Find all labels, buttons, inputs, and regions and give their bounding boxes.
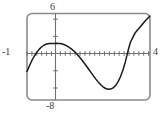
x-max-label: 4 <box>153 47 158 57</box>
x-min-label: -1 <box>2 47 10 57</box>
graph-figure: 6 -1 4 -8 <box>0 0 165 115</box>
plot-frame <box>27 14 150 101</box>
y-max-label: 6 <box>50 2 55 12</box>
y-min-label: -8 <box>46 101 54 111</box>
plot-canvas <box>0 0 165 115</box>
